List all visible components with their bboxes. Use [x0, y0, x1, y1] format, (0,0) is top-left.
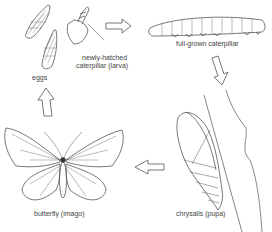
arrow-left-icon: [135, 160, 164, 174]
arrow-right-icon: [106, 19, 131, 33]
caterpillar-drawing: [149, 17, 265, 36]
arrow-up-icon: [38, 88, 54, 116]
label-larva-line1: newly-hatched: [82, 54, 127, 62]
label-larva-line2: caterpillar (larva): [76, 62, 128, 70]
life-cycle-illustration: [0, 0, 272, 232]
arrow-down-icon: [212, 56, 228, 85]
label-caterpillar: full-grown caterpillar: [176, 40, 239, 48]
eggs-drawing: [26, 5, 57, 69]
butterfly-drawing: [5, 128, 124, 200]
label-butterfly: butterfly (imago): [34, 210, 85, 218]
larva-drawing: [67, 7, 104, 44]
label-chrysalis: chrysalis (pupa): [176, 210, 225, 218]
label-eggs: eggs: [32, 74, 47, 82]
chrysalis-drawing: [177, 112, 223, 210]
